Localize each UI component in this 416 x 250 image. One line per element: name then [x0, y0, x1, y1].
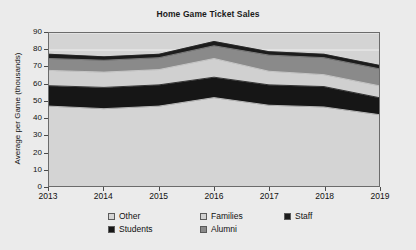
area-series-other	[49, 98, 379, 186]
legend-item-other[interactable]: Other	[108, 211, 140, 221]
y-tick-label: 40	[22, 113, 42, 122]
y-tick-label: 30	[22, 130, 42, 139]
legend-swatch-staff	[284, 213, 291, 220]
y-tick-label: 60	[22, 79, 42, 88]
x-tick-label: 2017	[249, 191, 289, 201]
y-tick-label: 10	[22, 165, 42, 174]
legend-label: Families	[211, 211, 243, 221]
chart-title: Home Game Ticket Sales	[0, 9, 416, 19]
legend-swatch-students	[108, 226, 115, 233]
legend-swatch-families	[200, 213, 207, 220]
x-tick-label: 2018	[305, 191, 345, 201]
legend-label: Staff	[295, 211, 312, 221]
legend-label: Alumni	[211, 224, 237, 234]
y-tick-label: 50	[22, 96, 42, 105]
y-axis-label: Average per Game (thousands)	[13, 34, 22, 184]
x-tick-label: 2015	[139, 191, 179, 201]
legend-item-alumni[interactable]: Alumni	[200, 224, 237, 234]
x-tick-label: 2016	[194, 191, 234, 201]
stacked-area-series	[49, 33, 379, 186]
y-tick-label: 80	[22, 44, 42, 53]
y-tick-label: 20	[22, 148, 42, 157]
legend-item-families[interactable]: Families	[200, 211, 243, 221]
legend-swatch-other	[108, 213, 115, 220]
legend-label: Students	[119, 224, 153, 234]
x-tick-label: 2019	[360, 191, 400, 201]
legend-item-staff[interactable]: Staff	[284, 211, 312, 221]
y-tick-label: 70	[22, 61, 42, 70]
legend-swatch-alumni	[200, 226, 207, 233]
x-tick-label: 2014	[83, 191, 123, 201]
chart-legend: OtherFamiliesStaffStudentsAlumni	[108, 211, 338, 241]
x-tick-label: 2013	[28, 191, 68, 201]
legend-label: Other	[119, 211, 140, 221]
y-tick-label: 0	[22, 182, 42, 191]
legend-item-students[interactable]: Students	[108, 224, 153, 234]
chart-root: Home Game Ticket Sales Average per Game …	[0, 0, 416, 250]
plot-area	[48, 32, 380, 187]
y-tick-label: 90	[22, 27, 42, 36]
